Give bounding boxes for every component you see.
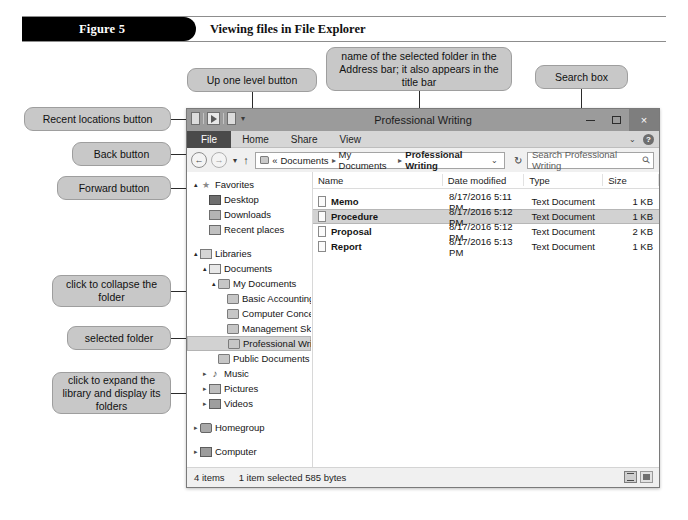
collapse-twisty-icon[interactable]: ▴ <box>191 181 200 189</box>
tree-item-recent-places[interactable]: Recent places <box>187 222 311 237</box>
tree-spacer <box>187 435 311 444</box>
tree-item-homegroup[interactable]: ▸Homegroup <box>187 420 311 435</box>
recent-icon <box>209 225 221 235</box>
up-one-level-button[interactable]: ↑ <box>240 154 252 166</box>
tree-item-label: Computer Concepts <box>242 308 311 319</box>
help-icon[interactable]: ? <box>643 134 654 145</box>
collapse-twisty-icon[interactable]: ▴ <box>209 280 218 288</box>
tree-item-computer-concepts[interactable]: Computer Concepts <box>187 306 311 321</box>
collapse-twisty-icon[interactable]: ▴ <box>200 265 209 273</box>
tab-file[interactable]: File <box>187 131 231 148</box>
tree-item-label: Favorites <box>215 179 254 190</box>
star-icon: ★ <box>200 180 212 190</box>
figure-number-label: Figure 5 <box>22 17 182 41</box>
expand-twisty-icon[interactable]: ▸ <box>191 424 200 432</box>
tab-home[interactable]: Home <box>231 131 280 148</box>
maximize-icon <box>612 116 621 124</box>
column-header-type[interactable]: Type <box>524 174 603 186</box>
column-header-size[interactable]: Size <box>603 174 659 186</box>
close-button[interactable]: × <box>629 109 659 131</box>
tree-item-my-documents[interactable]: ▴My Documents <box>187 276 311 291</box>
folder-icon <box>260 156 269 164</box>
tree-item-professional-writing[interactable]: Professional Writing <box>187 336 311 351</box>
file-name-cell: Proposal <box>313 226 444 237</box>
figure-caption: Viewing files in File Explorer <box>210 18 366 40</box>
expand-ribbon-chevron-icon[interactable]: ⌄ <box>629 135 636 144</box>
pictures-icon <box>209 384 221 394</box>
tree-item-label: Videos <box>224 398 253 409</box>
tree-item-label: Recent places <box>224 224 284 235</box>
expand-twisty-icon[interactable]: ▸ <box>200 385 209 393</box>
tab-share[interactable]: Share <box>280 131 329 148</box>
tree-item-public-documents[interactable]: Public Documents <box>187 351 311 366</box>
folder-icon <box>227 309 239 319</box>
file-type: Text Document <box>527 241 607 252</box>
file-name-cell: Memo <box>313 196 444 207</box>
file-name-cell: Report <box>313 241 444 252</box>
file-list-pane[interactable]: Name Date modified Type Size Memo8/17/20… <box>312 172 659 467</box>
file-name: Memo <box>331 196 358 207</box>
tree-item-pictures[interactable]: ▸Pictures <box>187 381 311 396</box>
library-icon <box>200 249 212 259</box>
tree-item-label: Libraries <box>215 248 251 259</box>
details-view-button[interactable] <box>624 471 637 483</box>
callout-forward-button: Forward button <box>57 176 171 200</box>
tree-item-libraries[interactable]: ▴Libraries <box>187 246 311 261</box>
expand-twisty-icon[interactable]: ▸ <box>200 370 209 378</box>
maximize-button[interactable] <box>603 109 629 131</box>
navigation-pane[interactable]: ▴★FavoritesDesktopDownloadsRecent places… <box>187 172 311 467</box>
file-row[interactable]: Report8/17/2016 5:13 PMText Document1 KB <box>313 239 659 254</box>
column-header-name[interactable]: Name <box>313 174 443 186</box>
tab-view[interactable]: View <box>329 131 373 148</box>
large-icons-view-button[interactable] <box>640 471 653 483</box>
tree-item-management-skills[interactable]: Management Skills <box>187 321 311 336</box>
tree-item-computer[interactable]: ▸Computer <box>187 444 311 459</box>
file-name: Proposal <box>331 226 372 237</box>
refresh-icon[interactable]: ↻ <box>514 155 522 166</box>
forward-button[interactable]: → <box>211 152 227 168</box>
status-bar: 4 items 1 item selected 585 bytes <box>187 467 659 487</box>
search-input[interactable]: Search Professional Writing <box>532 149 642 171</box>
breadcrumb-overflow[interactable]: « <box>272 155 277 166</box>
tree-item-videos[interactable]: ▸Videos <box>187 396 311 411</box>
tree-item-documents[interactable]: ▴Documents <box>187 261 311 276</box>
text-document-icon <box>318 196 326 207</box>
callout-selected-folder: selected folder <box>67 326 171 350</box>
tree-item-label: Desktop <box>224 194 259 205</box>
tree-item-downloads[interactable]: Downloads <box>187 207 311 222</box>
breadcrumb-separator-2[interactable]: ▸ <box>398 156 402 165</box>
search-box[interactable]: Search Professional Writing ⚲ <box>527 152 654 169</box>
title-bar: ▾ Professional Writing × <box>187 109 659 131</box>
music-icon: ♪ <box>209 369 221 379</box>
file-name-cell: Procedure <box>313 211 444 222</box>
back-button[interactable]: ← <box>191 152 207 168</box>
tree-item-label: Homegroup <box>215 422 265 433</box>
recent-locations-button[interactable]: ▾ <box>230 156 240 165</box>
callout-collapse-folder: click to collapse the folder <box>52 275 171 307</box>
minimize-icon <box>586 120 595 121</box>
tree-item-music[interactable]: ▸♪Music <box>187 366 311 381</box>
column-header-date-modified[interactable]: Date modified <box>443 174 525 186</box>
breadcrumb-separator-1[interactable]: ▸ <box>332 156 336 165</box>
tree-item-desktop[interactable]: Desktop <box>187 192 311 207</box>
breadcrumb-item-professional-writing[interactable]: Professional Writing <box>405 149 488 171</box>
minimize-button[interactable] <box>577 109 603 131</box>
tree-item-basic-accounting[interactable]: Basic Accounting <box>187 291 311 306</box>
file-type: Text Document <box>527 196 607 207</box>
folder-tree[interactable]: ▴★FavoritesDesktopDownloadsRecent places… <box>187 177 311 459</box>
tree-item-label: Professional Writing <box>243 338 311 349</box>
tree-item-favorites[interactable]: ▴★Favorites <box>187 177 311 192</box>
address-bar: ← → ▾ ↑ « Documents ▸ My Documents ▸ Pro… <box>187 148 659 172</box>
expand-twisty-icon[interactable]: ▸ <box>191 448 200 456</box>
breadcrumb-item-my-documents[interactable]: My Documents <box>339 149 396 171</box>
tree-item-label: Downloads <box>224 209 271 220</box>
tree-item-label: My Documents <box>233 278 296 289</box>
file-date-modified: 8/17/2016 5:13 PM <box>444 236 527 258</box>
breadcrumb-item-documents[interactable]: Documents <box>280 155 328 166</box>
address-breadcrumb[interactable]: « Documents ▸ My Documents ▸ Professiona… <box>255 152 505 169</box>
collapse-twisty-icon[interactable]: ▴ <box>191 250 200 258</box>
breadcrumb-chevron-down-icon[interactable]: ⌄ <box>491 156 500 165</box>
expand-twisty-icon[interactable]: ▸ <box>200 400 209 408</box>
figure-header: Figure 5 Viewing files in File Explorer <box>22 16 666 42</box>
status-item-count: 4 items <box>187 472 225 483</box>
